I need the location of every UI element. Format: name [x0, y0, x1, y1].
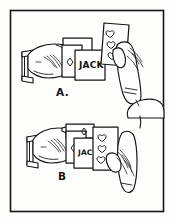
panel-a-label: A.	[56, 86, 69, 98]
figure-root: JACK	[0, 0, 174, 222]
jack-card-a: JACK	[75, 50, 105, 80]
panel-b-label: B	[58, 170, 66, 182]
card-trick-illustration: JACK	[0, 0, 174, 222]
jack-card-label: JACK	[78, 60, 105, 70]
jac-card-label: JAC	[77, 148, 93, 157]
